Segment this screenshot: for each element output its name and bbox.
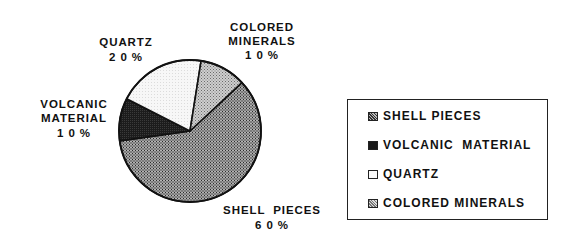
swatch-shell-pieces-icon [368,112,378,121]
legend-item-volcanic-material: VOLCANIC MATERIAL [368,138,531,152]
legend-item-colored-minerals: COLORED MINERALS [368,196,525,210]
label-colored-line2: MINERALS [228,35,295,47]
legend-item-quartz: QUARTZ [368,167,439,181]
swatch-colored-minerals-icon [368,199,378,208]
legend-item-shell-pieces: SHELL PIECES [368,109,481,123]
legend-label: SHELL PIECES [383,109,481,123]
label-quartz-pct: 2 0 % [109,51,143,63]
legend-label: VOLCANIC MATERIAL [383,138,531,152]
label-volcanic-line2: MATERIAL [41,112,107,124]
legend-label: QUARTZ [383,167,439,181]
label-colored-pct: 1 0 % [245,49,279,61]
label-shell-pct: 6 0 % [255,219,289,231]
swatch-quartz-icon [368,170,378,179]
legend-label: COLORED MINERALS [383,196,525,210]
label-shell-name: SHELL PIECES [223,204,321,216]
label-volcanic-line1: VOLCANIC [40,98,107,110]
swatch-volcanic-material-icon [368,141,378,150]
label-quartz-name: QUARTZ [99,36,152,48]
label-volcanic-pct: 1 0 % [57,127,91,139]
label-colored-line1: COLORED [230,21,294,33]
legend: SHELL PIECES VOLCANIC MATERIAL QUARTZ CO… [347,99,548,220]
